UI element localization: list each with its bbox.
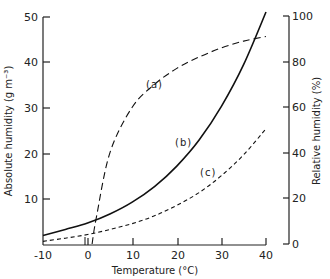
y2-tick-100: 100 bbox=[292, 10, 313, 23]
y-axis-label: Absolute humidity (g m⁻³) bbox=[3, 66, 14, 197]
x-axis-label: Temperature (°C) bbox=[111, 265, 198, 276]
right-tick-labels: 100 80 60 40 20 0 bbox=[292, 10, 313, 251]
x-tick-neg10: -10 bbox=[34, 249, 52, 262]
left-tick-labels: 50 40 30 20 10 bbox=[24, 11, 38, 206]
x-tick-30: 30 bbox=[215, 249, 229, 262]
y2-tick-60: 60 bbox=[292, 101, 306, 114]
x-tick-10: 10 bbox=[126, 249, 140, 262]
x-tick-0: 0 bbox=[85, 249, 92, 262]
y-tick-40: 40 bbox=[24, 56, 38, 69]
y-tick-50: 50 bbox=[24, 11, 38, 24]
x-tick-labels: -10 0 10 20 30 40 bbox=[34, 249, 273, 262]
y2-axis-label: Relative humidity (%) bbox=[311, 77, 322, 185]
y2-tick-80: 80 bbox=[292, 56, 306, 69]
curve-label-c: (c) bbox=[200, 167, 216, 178]
y2-tick-0: 0 bbox=[292, 238, 299, 251]
humidity-chart: 50 40 30 20 10 -10 0 10 20 30 40 100 80 … bbox=[0, 0, 330, 279]
y2-tick-20: 20 bbox=[292, 192, 306, 205]
y-tick-20: 20 bbox=[24, 148, 38, 161]
curve-c bbox=[43, 129, 266, 242]
curve-b bbox=[43, 12, 266, 235]
y-tick-10: 10 bbox=[24, 193, 38, 206]
curve-label-a: (a) bbox=[146, 79, 163, 90]
curves bbox=[43, 12, 266, 245]
y2-tick-40: 40 bbox=[292, 147, 306, 160]
curve-label-b: (b) bbox=[175, 137, 192, 148]
x-tick-20: 20 bbox=[171, 249, 185, 262]
x-tick-40: 40 bbox=[259, 249, 273, 262]
y-tick-30: 30 bbox=[24, 102, 38, 115]
